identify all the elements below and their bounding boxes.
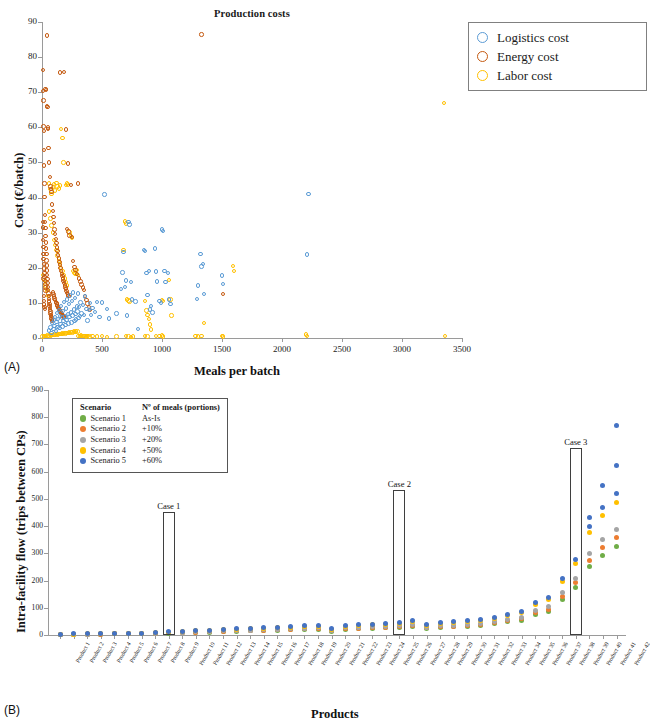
chart-a-data-point bbox=[42, 195, 46, 199]
chart-b-x-tick bbox=[223, 635, 224, 639]
chart-a-legend-item: Energy cost bbox=[477, 47, 637, 66]
chart-a-y-tick-label: 80 bbox=[12, 51, 37, 61]
chart-a-y-tick-label: 10 bbox=[12, 297, 37, 307]
chart-b-data-point bbox=[600, 537, 605, 542]
chart-b-data-point bbox=[600, 513, 605, 518]
chart-a-data-point bbox=[76, 181, 80, 185]
chart-b-data-point bbox=[465, 618, 470, 623]
chart-b-data-point bbox=[343, 623, 348, 628]
chart-b-x-tick bbox=[440, 635, 441, 639]
chart-b-legend-scenario-cell: Scenario 5 bbox=[80, 456, 142, 467]
chart-a-data-point bbox=[167, 297, 171, 301]
chart-a-legend-label: Energy cost bbox=[497, 50, 559, 63]
case-label-2: Case 2 bbox=[377, 479, 421, 489]
case-label-3: Case 3 bbox=[554, 437, 598, 447]
chart-a-y-tick bbox=[38, 198, 42, 199]
chart-a-data-point bbox=[220, 273, 224, 277]
chart-a-data-point bbox=[41, 252, 45, 256]
chart-b-x-tick bbox=[209, 635, 210, 639]
legend-dot-4-icon bbox=[80, 447, 86, 453]
chart-a-data-point bbox=[154, 269, 158, 273]
chart-a-data-point bbox=[221, 282, 225, 286]
chart-a-data-point bbox=[51, 209, 55, 213]
chart-a-x-tick bbox=[282, 338, 283, 342]
chart-a-data-point bbox=[41, 225, 45, 229]
chart-b-legend-label: Scenario 3 bbox=[90, 435, 126, 444]
chart-b-data-point bbox=[221, 627, 226, 632]
chart-a-data-point bbox=[149, 327, 153, 331]
chart-a-plot-area: 0102030405060708090050010001500200025003… bbox=[42, 22, 462, 338]
case-label-1: Case 1 bbox=[147, 501, 191, 511]
chart-b-data-point bbox=[316, 623, 321, 628]
chart-a-data-point bbox=[71, 259, 75, 263]
chart-a-data-point bbox=[100, 300, 104, 304]
legend-dot-1-icon bbox=[80, 415, 86, 421]
chart-a-data-point bbox=[221, 292, 225, 296]
chart-b-y-tick bbox=[44, 499, 48, 500]
chart-a-data-point bbox=[41, 68, 45, 72]
chart-b-x-tick bbox=[304, 635, 305, 639]
chart-b-legend-item: Scenario 2+10% bbox=[80, 424, 220, 435]
chart-a-data-point bbox=[45, 33, 49, 37]
chart-a-data-point bbox=[95, 300, 99, 304]
chart-b-x-tick bbox=[277, 635, 278, 639]
chart-a-data-point bbox=[199, 32, 203, 36]
chart-a-data-point bbox=[231, 264, 235, 268]
chart-b-legend-meals-cell: +50% bbox=[142, 446, 220, 457]
chart-a-data-point bbox=[202, 321, 206, 325]
chart-b-x-tick bbox=[196, 635, 197, 639]
chart-a-data-point bbox=[125, 313, 129, 317]
chart-a-x-tick-label: 1500 bbox=[204, 344, 240, 354]
chart-b-legend-header-row: ScenarioNº of meals (portions) bbox=[80, 403, 220, 414]
chart-b-data-point bbox=[614, 535, 619, 540]
panel-a: Production costs Cost (€/batch) 01020304… bbox=[0, 0, 641, 372]
chart-a-data-point bbox=[82, 288, 86, 292]
chart-b-data-point bbox=[180, 629, 185, 634]
chart-b-data-point bbox=[492, 615, 497, 620]
legend-marker-1-icon bbox=[477, 32, 488, 43]
chart-b-data-point bbox=[587, 564, 592, 569]
chart-a-data-point bbox=[62, 70, 66, 74]
chart-a-data-point bbox=[44, 88, 48, 92]
chart-a-data-point bbox=[65, 297, 69, 301]
chart-b-x-tick bbox=[237, 635, 238, 639]
chart-a-data-point bbox=[41, 257, 45, 261]
panel-b-label: (B) bbox=[4, 703, 20, 717]
chart-b-x-axis-title: Products bbox=[311, 707, 359, 720]
chart-a-data-point bbox=[163, 280, 167, 284]
chart-a-x-tick-label: 3500 bbox=[444, 344, 480, 354]
chart-b-data-point bbox=[600, 553, 605, 558]
legend-marker-2-icon bbox=[477, 51, 488, 62]
chart-b-y-tick bbox=[44, 581, 48, 582]
chart-b-data-point bbox=[139, 631, 144, 636]
chart-b-x-tick bbox=[522, 635, 523, 639]
chart-a-data-point bbox=[97, 315, 101, 319]
chart-a-data-point bbox=[166, 271, 170, 275]
chart-b-legend-scenario-cell: Scenario 1 bbox=[80, 414, 142, 425]
chart-b-legend-label: Scenario 2 bbox=[90, 424, 126, 433]
chart-b-data-point bbox=[587, 530, 592, 535]
chart-a-data-point bbox=[46, 146, 50, 150]
chart-a-data-point bbox=[42, 181, 46, 185]
chart-a-data-point bbox=[73, 296, 77, 300]
chart-a-data-point bbox=[155, 279, 159, 283]
chart-a-data-point bbox=[43, 213, 47, 217]
chart-b-data-point bbox=[587, 524, 592, 529]
chart-b-data-point bbox=[614, 463, 619, 468]
chart-a-data-point bbox=[42, 294, 46, 298]
chart-b-legend-label: Scenario 5 bbox=[90, 456, 126, 465]
chart-a-data-point bbox=[43, 307, 47, 311]
legend-dot-2-icon bbox=[80, 426, 86, 432]
chart-b-data-point bbox=[587, 551, 592, 556]
chart-b-y-tick bbox=[44, 444, 48, 445]
chart-b-x-tick bbox=[562, 635, 563, 639]
chart-b-y-tick-label: 100 bbox=[14, 603, 43, 612]
chart-b-data-point bbox=[519, 615, 524, 620]
chart-a-data-point bbox=[161, 229, 165, 233]
chart-a-legend-label: Labor cost bbox=[497, 69, 552, 82]
chart-b-x-tick bbox=[603, 635, 604, 639]
chart-a-data-point bbox=[46, 127, 50, 131]
chart-a-x-tick bbox=[342, 338, 343, 342]
chart-b-data-point bbox=[560, 590, 565, 595]
chart-a-data-point bbox=[201, 262, 205, 266]
